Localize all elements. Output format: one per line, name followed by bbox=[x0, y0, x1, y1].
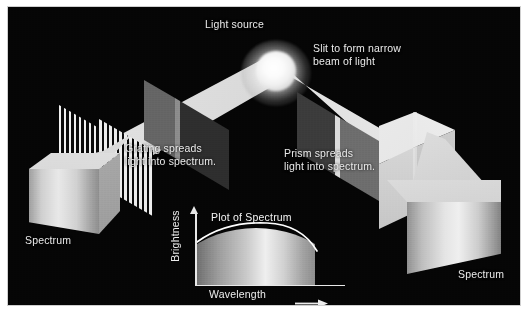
plot-y-axis-arrow-icon bbox=[190, 206, 198, 214]
label-prism: Prism spreads light into spectrum. bbox=[284, 147, 375, 172]
label-slit: Slit to form narrow beam of light bbox=[313, 42, 401, 67]
label-spectrum-left: Spectrum bbox=[25, 234, 71, 247]
plot-x-axis-arrow-icon bbox=[295, 294, 329, 306]
figure-frame: Plot of Spectrum Brightness Wavelength L… bbox=[0, 0, 528, 312]
label-spectrum-right: Spectrum bbox=[458, 268, 504, 281]
spectrum-band-left bbox=[29, 169, 99, 234]
light-source-core-icon bbox=[256, 51, 296, 91]
label-light-source: Light source bbox=[205, 18, 264, 31]
spectrum-plot: Plot of Spectrum Brightness Wavelength bbox=[167, 214, 357, 300]
plot-y-axis-label: Brightness bbox=[169, 198, 181, 274]
plot-x-axis-label: Wavelength bbox=[209, 288, 266, 300]
label-grating: Grating spreads light into spectrum. bbox=[125, 142, 216, 167]
spectrum-band-right bbox=[407, 202, 501, 274]
diagram-stage: Plot of Spectrum Brightness Wavelength L… bbox=[7, 6, 521, 306]
plot-x-axis bbox=[195, 285, 345, 287]
plot-y-axis bbox=[195, 214, 197, 286]
plot-title: Plot of Spectrum bbox=[211, 211, 292, 223]
